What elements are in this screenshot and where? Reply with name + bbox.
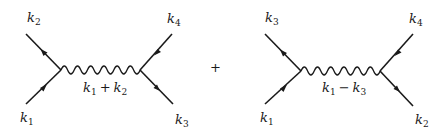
label-k2: k2 (415, 112, 429, 129)
diagram-s-channel: k2 k1 k4 k3 k1+k2 (20, 10, 189, 129)
diagram-t-channel: k3 k1 k4 k2 k1−k3 (260, 10, 429, 129)
label-k4: k4 (167, 11, 181, 28)
label-k2: k2 (27, 10, 41, 27)
propagator-label-k1-plus-k2: k1+k2 (83, 80, 127, 97)
plus-sign: + (210, 60, 221, 75)
arrow-icon (280, 85, 287, 93)
label-k3: k3 (175, 112, 189, 129)
label-k3: k3 (265, 10, 279, 27)
label-k4: k4 (409, 11, 423, 28)
photon-propagator (301, 67, 380, 75)
propagator-label-k1-minus-k3: k1−k3 (322, 80, 366, 97)
photon-propagator (61, 66, 140, 74)
label-k1: k1 (260, 110, 274, 127)
feynman-diagrams: k2 k1 k4 k3 k1+k2 + k3 k1 k4 k2 k1−k3 (0, 0, 448, 134)
label-k1: k1 (20, 110, 34, 127)
